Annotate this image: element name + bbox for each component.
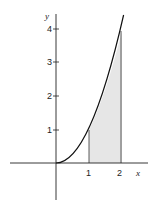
y-tick-label-4: 4 xyxy=(47,24,52,34)
x-tick-label-1: 1 xyxy=(86,168,91,178)
y-tick-label-3: 3 xyxy=(47,57,52,67)
area-under-curve-figure: 1 2 3 4 1 2 x y xyxy=(0,0,158,210)
y-tick-label-2: 2 xyxy=(47,91,52,101)
x-tick-label-2: 2 xyxy=(117,168,122,178)
y-tick-label-1: 1 xyxy=(47,125,52,135)
x-axis-label: x xyxy=(135,168,140,178)
shaded-area xyxy=(89,31,122,163)
y-axis-label: y xyxy=(44,11,49,21)
